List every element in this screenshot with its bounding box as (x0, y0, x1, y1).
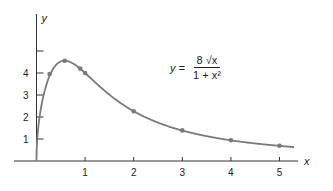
equation-fraction: 8 √x 1 + x² (193, 54, 221, 81)
data-point (83, 71, 88, 76)
data-point (131, 109, 136, 114)
y-tick-label: 1 (23, 134, 29, 145)
y-tick-label: 4 (23, 68, 29, 79)
x-tick-label: 3 (180, 167, 186, 178)
x-tick-label: 4 (228, 167, 234, 178)
x-tick-label: 5 (277, 167, 283, 178)
x-tick-label: 1 (82, 167, 88, 178)
equation-lhs: y = (170, 62, 185, 74)
equation-label: y = 8 √x 1 + x² (170, 54, 221, 81)
equation-denominator: 1 + x² (193, 68, 221, 81)
equation-numerator: 8 √x (194, 54, 221, 68)
y-tick-label: 3 (23, 90, 29, 101)
function-curve (37, 61, 295, 161)
data-point (78, 66, 83, 71)
data-point (277, 144, 282, 149)
axes: 123451234xy (14, 12, 310, 178)
data-point (180, 128, 185, 133)
x-axis-label: x (303, 155, 310, 167)
y-tick-label: 2 (23, 112, 29, 123)
data-point (229, 138, 234, 143)
curve (37, 61, 295, 161)
data-point (47, 72, 52, 77)
x-tick-label: 2 (131, 167, 137, 178)
chart: 123451234xy (0, 0, 333, 191)
y-axis-label: y (41, 12, 49, 24)
data-point (62, 58, 67, 63)
